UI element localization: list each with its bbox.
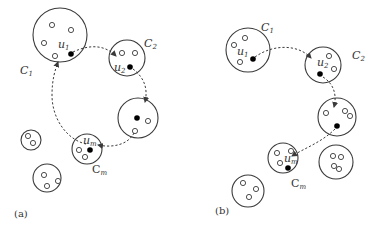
cluster-other: [21, 130, 41, 150]
cluster-intermediate: [318, 98, 356, 136]
cluster-label-c1: C1: [20, 64, 33, 78]
panel-caption-b: (b): [215, 205, 229, 216]
cluster-other: [319, 145, 353, 179]
leader-label-u1: u1: [237, 45, 249, 59]
cluster-label-c2: C2: [352, 49, 365, 63]
cluster-c2: u2 C2: [305, 47, 365, 83]
cluster-label-cm: Cm: [291, 177, 306, 191]
cluster-c1: u1 C1: [20, 8, 87, 78]
leader-label-u2: u2: [114, 61, 126, 75]
leader-node: [87, 147, 93, 153]
cluster-cm: um Cm: [268, 143, 306, 191]
cluster-other: [232, 175, 264, 207]
leader-node: [250, 56, 256, 62]
cluster-label-c2: C2: [144, 37, 157, 51]
cluster-c2: u2 C2: [109, 37, 157, 76]
leader-node: [285, 165, 291, 171]
leader-node: [134, 115, 140, 121]
cluster-label-c1: C1: [261, 21, 274, 35]
cluster-other: [33, 164, 61, 192]
leader-label-u1: u1: [58, 38, 70, 52]
leader-node: [127, 64, 133, 70]
cluster-diagram: u1 C1 u2 C2 um Cm: [0, 0, 375, 229]
leader-node: [334, 123, 340, 129]
panel-caption-a: (a): [14, 208, 28, 219]
panel-b: u1 C1 u2 C2 um Cm: [215, 21, 365, 216]
leader-node: [68, 51, 74, 57]
cluster-label-cm: Cm: [92, 163, 107, 177]
cluster-c1: u1 C1: [226, 21, 274, 72]
leader-node: [317, 71, 323, 77]
panel-a: u1 C1 u2 C2 um Cm: [14, 8, 158, 219]
cluster-intermediate: [118, 98, 158, 138]
